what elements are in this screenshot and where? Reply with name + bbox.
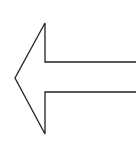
arrow-canvas [0, 0, 136, 145]
left-arrow-icon [0, 0, 136, 145]
